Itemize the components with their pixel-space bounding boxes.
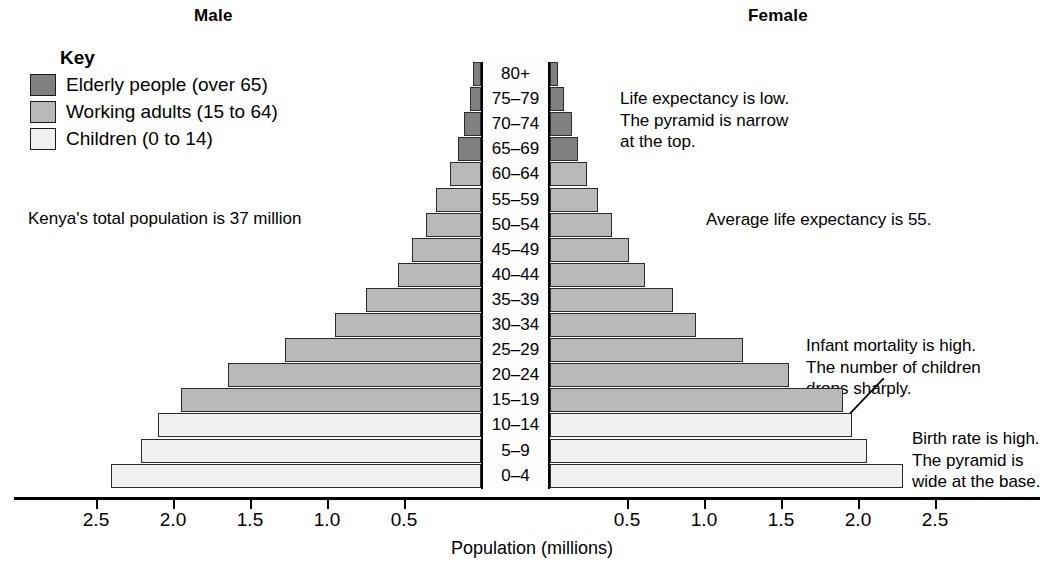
female-bar-75-79	[550, 87, 564, 111]
bar-fill	[550, 388, 843, 412]
female-bar-35-39	[550, 288, 673, 312]
axis-tick-label: 2.0	[845, 509, 871, 531]
age-label: 0–4	[481, 464, 550, 488]
axis-tick	[327, 500, 329, 509]
bar-fill	[550, 213, 612, 237]
female-bar-60-64	[550, 162, 587, 186]
x-axis-title: Population (millions)	[0, 538, 1064, 559]
bar-fill	[228, 363, 481, 387]
male-bar-80+	[473, 62, 481, 86]
male-bar-20-24	[228, 363, 481, 387]
axis-tick	[858, 500, 860, 509]
bar-fill	[141, 439, 481, 463]
male-bar-45-49	[412, 238, 481, 262]
population-pyramid-figure: Male Female Key Elderly people (over 65)…	[0, 0, 1064, 567]
bar-fill	[398, 263, 481, 287]
age-label: 25–29	[481, 338, 550, 362]
axis-tick	[250, 500, 252, 509]
age-label: 30–34	[481, 313, 550, 337]
bar-fill	[550, 439, 867, 463]
bar-fill	[366, 288, 482, 312]
chart-area: 80+75–7970–7465–6960–6455–5950–5445–4940…	[0, 0, 1064, 567]
age-label: 35–39	[481, 288, 550, 312]
age-label: 60–64	[481, 162, 550, 186]
male-bar-30-34	[335, 313, 481, 337]
bar-fill	[458, 137, 481, 161]
bar-fill	[550, 338, 743, 362]
axis-tick	[781, 500, 783, 509]
axis-tick-label: 1.0	[691, 509, 717, 531]
bar-fill	[436, 188, 481, 212]
male-bar-55-59	[436, 188, 481, 212]
bar-fill	[181, 388, 481, 412]
age-label: 80+	[481, 62, 550, 86]
female-bar-40-44	[550, 263, 645, 287]
male-bar-60-64	[450, 162, 481, 186]
bar-fill	[550, 413, 852, 437]
axis-tick-label: 1.5	[237, 509, 263, 531]
bar-fill	[550, 288, 673, 312]
age-label: 45–49	[481, 238, 550, 262]
male-bar-70-74	[464, 112, 481, 136]
male-bar-10-14	[158, 413, 481, 437]
female-bar-55-59	[550, 188, 598, 212]
age-label: 65–69	[481, 137, 550, 161]
female-bar-70-74	[550, 112, 572, 136]
axis-tick	[627, 500, 629, 509]
male-bar-25-29	[285, 338, 481, 362]
age-label: 75–79	[481, 87, 550, 111]
bar-fill	[111, 464, 481, 488]
axis-tick	[404, 500, 406, 509]
bar-fill	[550, 313, 696, 337]
bar-fill	[464, 112, 481, 136]
age-label: 5–9	[481, 439, 550, 463]
male-bar-65-69	[458, 137, 481, 161]
bar-fill	[550, 263, 645, 287]
age-label: 20–24	[481, 363, 550, 387]
female-bar-80+	[550, 62, 558, 86]
axis-tick-label: 2.5	[922, 509, 948, 531]
axis-tick	[96, 500, 98, 509]
age-label: 55–59	[481, 188, 550, 212]
bar-fill	[550, 363, 789, 387]
male-bar-50-54	[426, 213, 481, 237]
age-label: 50–54	[481, 213, 550, 237]
axis-tick-label: 0.5	[614, 509, 640, 531]
x-axis-line	[14, 497, 1040, 500]
bar-fill	[550, 137, 578, 161]
age-label: 70–74	[481, 112, 550, 136]
female-bar-0-4	[550, 464, 903, 488]
axis-tick	[935, 500, 937, 509]
axis-tick	[173, 500, 175, 509]
female-bar-50-54	[550, 213, 612, 237]
female-bar-65-69	[550, 137, 578, 161]
bar-fill	[550, 87, 564, 111]
female-bar-30-34	[550, 313, 696, 337]
bar-fill	[550, 62, 558, 86]
bar-fill	[550, 464, 903, 488]
axis-tick-label: 0.5	[391, 509, 417, 531]
age-label: 15–19	[481, 388, 550, 412]
axis-tick-label: 2.0	[160, 509, 186, 531]
age-label: 10–14	[481, 413, 550, 437]
male-bar-5-9	[141, 439, 481, 463]
bar-fill	[426, 213, 481, 237]
female-bar-5-9	[550, 439, 867, 463]
bar-fill	[450, 162, 481, 186]
male-bar-15-19	[181, 388, 481, 412]
bar-fill	[285, 338, 481, 362]
bar-fill	[335, 313, 481, 337]
axis-tick-label: 1.5	[768, 509, 794, 531]
axis-tick	[704, 500, 706, 509]
male-bar-35-39	[366, 288, 482, 312]
bar-fill	[473, 62, 481, 86]
female-bar-15-19	[550, 388, 843, 412]
bar-fill	[550, 238, 629, 262]
bar-fill	[412, 238, 481, 262]
male-bar-40-44	[398, 263, 481, 287]
bar-fill	[550, 188, 598, 212]
male-bar-75-79	[470, 87, 481, 111]
pyramid-plot: 80+75–7970–7465–6960–6455–5950–5445–4940…	[0, 0, 1064, 500]
female-bar-10-14	[550, 413, 852, 437]
age-label: 40–44	[481, 263, 550, 287]
